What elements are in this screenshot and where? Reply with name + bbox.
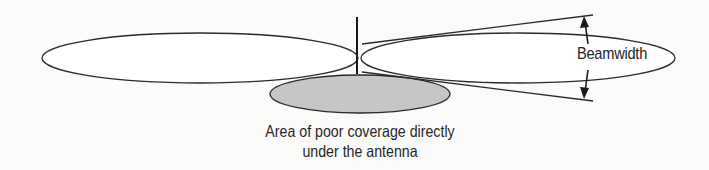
caption-line-2: under the antenna xyxy=(222,141,497,161)
poor-coverage-caption: Area of poor coverage directly under the… xyxy=(222,121,497,161)
left-lobe xyxy=(42,33,358,83)
poor-coverage-area xyxy=(270,75,450,113)
beamwidth-label: Beamwidth xyxy=(577,44,647,64)
antenna-pattern-diagram: Beamwidth Area of poor coverage directly… xyxy=(0,0,709,170)
caption-line-1: Area of poor coverage directly xyxy=(222,121,497,141)
